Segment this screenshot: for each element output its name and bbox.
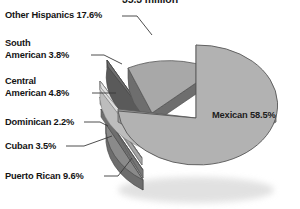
leader-line-cuban bbox=[66, 136, 112, 146]
slice-label-central-american: Central American 4.8% bbox=[5, 76, 69, 99]
leader-line-dominican bbox=[84, 122, 108, 126]
pie-chart-figure: 35.3 million bbox=[0, 0, 300, 209]
slice-label-other-hispanics: Other Hispanics 17.6% bbox=[5, 10, 102, 22]
slice-label-south-american: South American 3.8% bbox=[5, 38, 69, 61]
slice-label-puerto-rican: Puerto Rican 9.6% bbox=[5, 171, 84, 183]
slice-label-dominican: Dominican 2.2% bbox=[5, 117, 74, 129]
slice-label-cuban: Cuban 3.5% bbox=[5, 141, 56, 153]
leader-line-other-hispanics bbox=[122, 16, 152, 35]
slice-label-mexican: Mexican 58.5% bbox=[212, 110, 276, 120]
leader-line-south-american bbox=[91, 55, 122, 64]
